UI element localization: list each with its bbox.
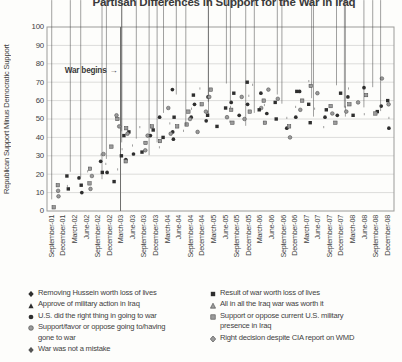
y-tick-label: 50 [16,114,44,123]
legend-label: Removing Hussein worth loss of lives [38,288,157,297]
x-tick-label: December-04 [197,215,206,282]
legend-label: Support or oppose current U.S. military … [220,311,343,331]
x-tick-label: December-06 [290,215,299,282]
x-tick-label: March-07 [302,215,311,282]
x-tick-label: June-06 [267,215,276,282]
diamond-marker-icon [28,290,34,296]
triangle-marker-icon [210,302,216,308]
war-begins-label: War begins [65,66,107,75]
x-tick-label: March-06 [255,215,264,282]
y-tick-label: 30 [16,151,44,160]
scatter-points [50,0,391,209]
x-tick-label: March-05 [209,215,218,282]
x-tick-label: September-02 [93,215,102,282]
legend-label: War was not a mistake [38,344,110,353]
square-marker-icon [210,290,216,296]
x-tick-label: December-08 [383,215,392,282]
y-tick-label: 40 [16,133,44,142]
x-tick-label: December-01 [58,215,67,282]
x-tick-label: June-03 [128,215,137,282]
y-tick-label: 10 [16,188,44,197]
circle-marker-icon [28,313,34,319]
partisan-war-support-chart: Partisan Differences in Support for the … [0,0,402,362]
diamond-marker-icon [28,346,34,352]
y-tick-label: 80 [16,59,44,68]
legend-item: All in all the Iraq war was worth it [210,299,370,310]
legend-item: Support or oppose current U.S. military … [210,311,370,333]
y-tick-label: 70 [16,78,44,87]
x-tick-label: December-05 [244,215,253,282]
x-tick-label: March-02 [70,215,79,282]
x-tick-label: June-07 [313,215,322,282]
x-tick-label: June-02 [82,215,91,282]
legend-item: Approve of military action in Iraq [28,299,174,310]
legend-column: Result of war worth loss of livesAll in … [210,288,370,344]
x-tick-label: March-08 [348,215,357,282]
x-tick-label: September-01 [47,215,56,282]
y-tick-label: 60 [16,96,44,105]
legend-label: U.S. did the right thing in going to war [38,311,157,320]
square-marker-icon [210,313,216,319]
circle-marker-icon [28,324,34,330]
legend-label: Right decision despite CIA report on WMD [220,333,354,342]
x-tick-label: September-07 [325,215,334,282]
x-tick-label: December-07 [336,215,345,282]
x-tick-label: September-08 [371,215,380,282]
y-tick-label: 20 [16,170,44,179]
x-tick-label: December-03 [151,215,160,282]
y-tick-label: 100 [16,22,44,31]
legend-item: Result of war worth loss of lives [210,288,370,299]
x-tick-label: September-06 [279,215,288,282]
legend-label: All in all the Iraq war was worth it [220,299,323,308]
war-begins-annotation: War begins→ [65,66,118,75]
legend-item: War was not a mistake [28,344,174,355]
x-tick-label: June-04 [174,215,183,282]
y-tick-label: 0 [16,206,44,215]
x-tick-label: December-02 [105,215,114,282]
x-tick-label: June-05 [221,215,230,282]
legend-label: Result of war worth loss of lives [220,288,320,297]
x-tick-label: September-04 [186,215,195,282]
right-arrow-icon: → [110,66,118,75]
x-tick-label: March-03 [116,215,125,282]
legend-item: Support/favor or oppose going to/having … [28,322,174,344]
x-tick-label: September-03 [139,215,148,282]
legend-label: Support/favor or oppose going to/having … [38,322,165,342]
x-tick-label: March-04 [163,215,172,282]
triangle-marker-icon [28,302,34,308]
x-tick-label: September-05 [232,215,241,282]
legend-item: Removing Hussein worth loss of lives [28,288,174,299]
legend-column: Removing Hussein worth loss of livesAppr… [28,288,174,355]
y-tick-label: 90 [16,41,44,50]
legend-item: Right decision despite CIA report on WMD [210,333,370,344]
diamond-marker-icon [210,335,216,341]
legend-item: U.S. did the right thing in going to war [28,311,174,322]
legend-label: Approve of military action in Iraq [38,299,140,308]
x-tick-label: June-08 [360,215,369,282]
